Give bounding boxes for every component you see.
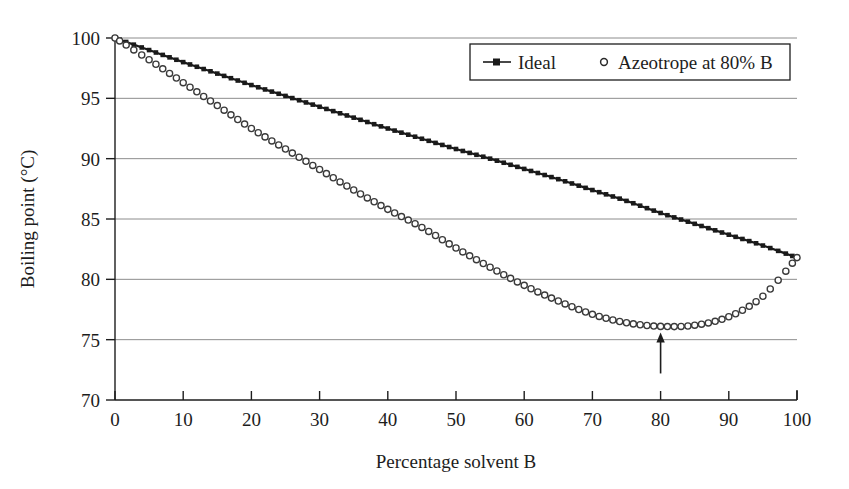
data-point-ideal — [720, 230, 725, 235]
boiling-point-chart: 707580859095100 0102030405060708090100 P… — [0, 0, 849, 489]
x-tick-label-30: 30 — [310, 409, 329, 430]
data-point-azeotrope — [344, 183, 350, 189]
data-point-ideal — [590, 188, 595, 193]
data-point-ideal — [556, 177, 561, 182]
data-point-ideal — [651, 208, 656, 213]
data-point-ideal — [740, 237, 745, 242]
data-point-azeotrope — [664, 323, 670, 329]
data-point-azeotrope — [712, 318, 718, 324]
data-point-ideal — [692, 222, 697, 227]
data-point-azeotrope — [460, 249, 466, 255]
data-point-azeotrope — [180, 80, 186, 86]
data-point-azeotrope — [719, 316, 725, 322]
data-point-ideal — [413, 134, 418, 139]
data-point-azeotrope — [453, 245, 459, 251]
x-tick-label-60: 60 — [515, 409, 534, 430]
data-point-azeotrope — [351, 187, 357, 193]
data-point-ideal — [529, 169, 534, 174]
data-point-ideal — [386, 126, 391, 131]
data-point-azeotrope — [603, 315, 609, 321]
data-point-azeotrope — [117, 38, 123, 44]
data-point-azeotrope — [767, 286, 773, 292]
data-point-azeotrope — [794, 255, 800, 261]
data-point-azeotrope — [248, 125, 254, 131]
data-point-azeotrope — [651, 323, 657, 329]
data-point-azeotrope — [323, 171, 329, 177]
data-point-ideal — [399, 130, 404, 135]
x-tick-label-40: 40 — [378, 409, 397, 430]
data-point-azeotrope — [733, 311, 739, 317]
data-point-azeotrope — [194, 89, 200, 95]
data-point-ideal — [542, 173, 547, 178]
data-point-azeotrope — [507, 275, 513, 281]
data-point-ideal — [549, 175, 554, 180]
x-axis-title: Percentage solvent B — [376, 451, 536, 472]
data-point-azeotrope — [610, 317, 616, 323]
data-point-ideal — [372, 122, 377, 127]
data-point-ideal — [501, 160, 506, 165]
x-tick-label-70: 70 — [583, 409, 602, 430]
legend-label-azeotrope: Azeotrope at 80% B — [618, 52, 773, 73]
data-point-azeotrope — [269, 138, 275, 144]
data-point-ideal — [420, 136, 425, 141]
x-tick-label-0: 0 — [110, 409, 120, 430]
data-point-ideal — [488, 156, 493, 161]
data-point-azeotrope — [705, 320, 711, 326]
legend-label-ideal: Ideal — [518, 52, 556, 73]
data-point-azeotrope — [535, 289, 541, 295]
data-point-ideal — [467, 151, 472, 156]
data-point-ideal — [351, 115, 356, 120]
data-point-ideal — [658, 211, 663, 216]
data-point-azeotrope — [494, 268, 500, 274]
data-point-ideal — [638, 203, 643, 208]
data-point-azeotrope — [582, 309, 588, 315]
data-point-azeotrope — [146, 57, 152, 63]
data-point-ideal — [576, 183, 581, 188]
data-point-azeotrope — [337, 179, 343, 185]
x-tick-label-20: 20 — [242, 409, 261, 430]
data-point-ideal — [713, 228, 718, 233]
data-point-azeotrope — [262, 134, 268, 140]
data-point-ideal — [365, 120, 370, 125]
data-point-ideal — [270, 89, 275, 94]
data-point-ideal — [754, 241, 759, 246]
data-point-azeotrope — [310, 162, 316, 168]
data-point-ideal — [201, 67, 206, 72]
data-point-azeotrope — [746, 303, 752, 309]
data-point-azeotrope — [678, 323, 684, 329]
data-point-azeotrope — [419, 224, 425, 230]
data-point-ideal — [768, 246, 773, 251]
data-point-ideal — [139, 45, 144, 50]
data-point-ideal — [310, 102, 315, 107]
data-point-ideal — [440, 143, 445, 148]
data-point-azeotrope — [760, 293, 766, 299]
data-point-ideal — [604, 192, 609, 197]
data-point-ideal — [665, 213, 670, 218]
data-point-azeotrope — [207, 98, 213, 104]
data-point-azeotrope — [405, 217, 411, 223]
data-point-azeotrope — [364, 195, 370, 201]
chart-container: 707580859095100 0102030405060708090100 P… — [0, 0, 849, 489]
data-point-azeotrope — [221, 107, 227, 113]
data-point-azeotrope — [139, 52, 145, 58]
data-point-ideal — [345, 113, 350, 118]
y-tick-label-80: 80 — [81, 269, 100, 290]
data-point-ideal — [474, 152, 479, 157]
data-point-ideal — [215, 71, 220, 76]
data-point-azeotrope — [123, 42, 129, 48]
y-axis-title: Boiling point (°C) — [17, 150, 39, 289]
data-point-ideal — [290, 96, 295, 101]
data-point-azeotrope — [617, 318, 623, 324]
data-point-ideal — [160, 53, 165, 58]
y-tick-label-70: 70 — [81, 390, 100, 411]
x-tick-label-50: 50 — [447, 409, 466, 430]
data-point-azeotrope — [214, 102, 220, 108]
data-point-azeotrope — [528, 286, 534, 292]
data-point-ideal — [256, 85, 261, 90]
data-point-ideal — [447, 145, 452, 150]
data-point-azeotrope — [330, 175, 336, 181]
data-point-ideal — [235, 78, 240, 83]
data-point-ideal — [624, 199, 629, 204]
data-point-azeotrope — [439, 237, 445, 243]
data-point-ideal — [611, 194, 616, 199]
